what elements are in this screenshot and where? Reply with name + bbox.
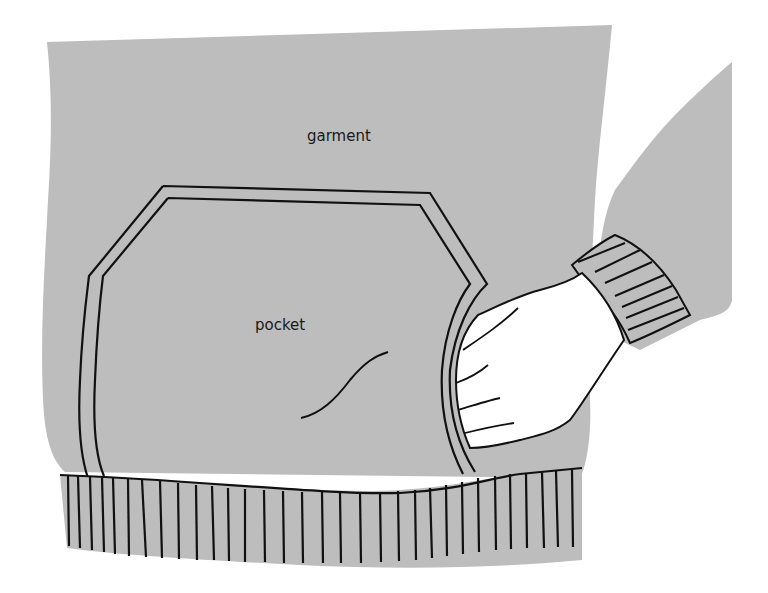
pocket-label: pocket <box>255 316 305 334</box>
waistband <box>60 468 582 568</box>
garment-pocket-illustration <box>0 0 768 593</box>
garment-label: garment <box>307 127 371 145</box>
